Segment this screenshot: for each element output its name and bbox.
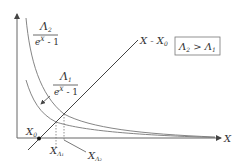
label-x-minus-x0: X - X0 [139, 35, 168, 47]
condition-box: Λ2 > Λ1 [175, 37, 220, 55]
svg-text:eX - 1: eX - 1 [35, 35, 59, 47]
svg-text:Λ2: Λ2 [39, 20, 52, 33]
curve-lambda2 [26, 18, 215, 137]
label-lambda2-fraction: Λ2 eX - 1 [33, 20, 59, 47]
label-x0: X0 [25, 126, 37, 138]
label-x-lambda2: XΛ₂ [87, 150, 102, 162]
x0-point [37, 137, 41, 141]
svg-text:eX - 1: eX - 1 [54, 85, 78, 97]
svg-text:Λ2 > Λ1: Λ2 > Λ1 [178, 41, 216, 53]
x-axis-label: X [223, 133, 232, 144]
svg-text:Λ1: Λ1 [59, 70, 72, 83]
label-x-lambda1: XΛ₁ [49, 145, 64, 157]
line-x-minus-x0 [28, 40, 138, 150]
diagram-canvas: X Λ2 eX - 1 Λ1 eX - 1 X - X0 Λ2 > Λ1 X0 … [0, 0, 236, 165]
arrow-lambda1-label [41, 96, 50, 104]
leader-x-lambda2 [64, 140, 86, 152]
label-lambda1-fraction: Λ1 eX - 1 [53, 70, 78, 97]
